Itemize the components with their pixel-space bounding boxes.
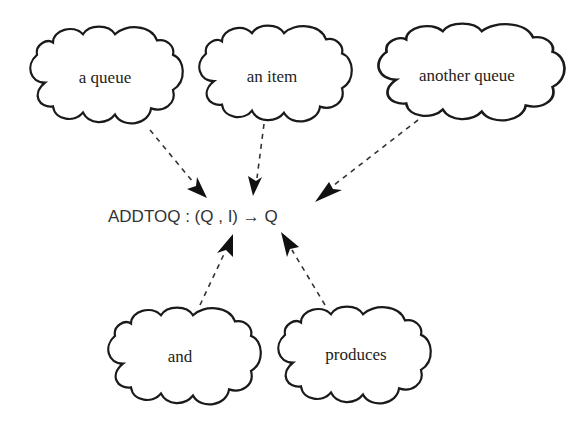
cloud-label-produces: produces [325, 345, 386, 364]
arrow-produces [281, 232, 325, 305]
arrow-an-item [248, 124, 264, 196]
cloud-label-and: and [168, 347, 193, 366]
arrowhead-icon [187, 177, 207, 198]
cloud-label-another-queue: another queue [419, 66, 515, 85]
arrowhead-icon [248, 176, 262, 196]
arrow-a-queue [150, 130, 207, 198]
cloud-label-a-queue: a queue [79, 68, 131, 87]
cloud-label-an-item: an item [247, 67, 298, 86]
arrowhead-icon [281, 232, 299, 257]
formula-text: ADDTOQ : (Q , I) → Q [108, 207, 278, 226]
arrowhead-icon [217, 234, 233, 257]
arrow-another-queue [315, 120, 418, 202]
diagram-canvas: a queue an item another queue and produc… [0, 0, 583, 431]
arrowhead-icon [315, 182, 342, 202]
arrow-and [200, 234, 233, 305]
